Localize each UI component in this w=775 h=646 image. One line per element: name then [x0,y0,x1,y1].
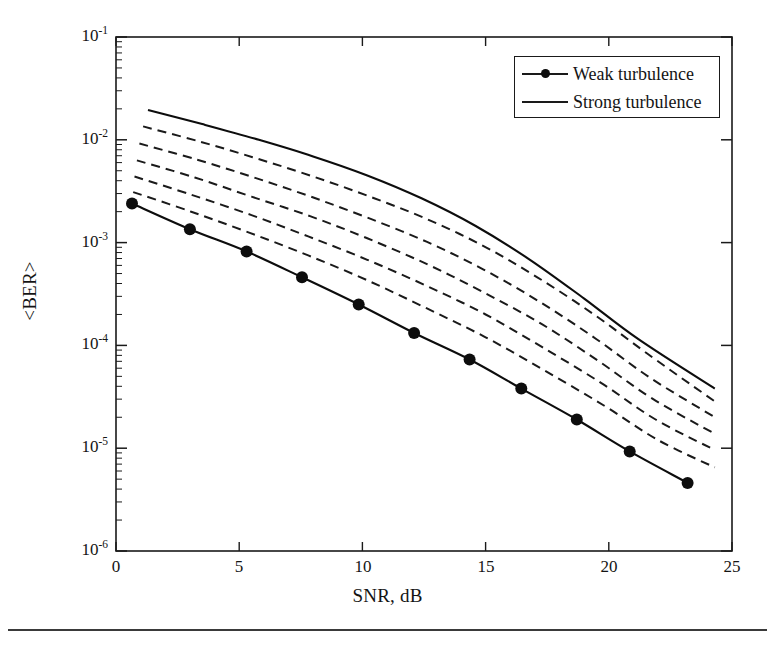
ytick-label: 10-5 [38,437,108,457]
legend-label: Weak turbulence [568,64,694,85]
xtick-label: 5 [209,557,269,577]
legend-item-weak-turbulence: Weak turbulence [515,60,719,88]
series-line-intermediate-curve-4 [135,177,715,451]
data-series [132,110,715,483]
ytick-label: 10-1 [38,26,108,46]
legend-plain-line-icon [522,95,568,109]
series-line-intermediate-curve-5 [133,192,715,467]
data-point-marker [571,414,583,426]
data-markers [126,198,694,489]
legend-marker-line-icon [522,67,568,81]
legend-label: Strong turbulence [568,92,701,113]
xtick-label: 20 [579,557,639,577]
ytick-label: 10-4 [38,334,108,354]
series-line-intermediate-curve-2 [139,144,714,418]
xtick-label: 15 [456,557,516,577]
xtick-label: 25 [702,557,762,577]
x-axis-title: SNR, dB [0,585,775,607]
data-point-marker [408,327,420,339]
data-point-marker [682,477,694,489]
ytick-label: 10-2 [38,129,108,149]
legend-item-strong-turbulence: Strong turbulence [515,88,719,116]
data-point-marker [184,223,196,235]
series-line-intermediate-curve-1 [143,126,715,401]
data-point-marker [296,271,308,283]
data-point-marker [624,445,636,457]
ytick-label: 10-3 [38,232,108,252]
page-divider-rule [8,629,767,631]
data-point-marker [241,246,253,258]
xtick-label: 0 [86,557,146,577]
data-point-marker [515,383,527,395]
figure-container: 10-1 10-2 10-3 10-4 10-5 10-6 0 5 10 15 … [0,0,775,646]
series-line-weak-turbulence [132,204,688,483]
chart-legend: Weak turbulence Strong turbulence [514,56,720,118]
data-point-marker [126,198,138,210]
data-point-marker [353,299,365,311]
data-point-marker [464,354,476,366]
xtick-label: 10 [333,557,393,577]
y-axis-title: <BER> [19,201,41,381]
